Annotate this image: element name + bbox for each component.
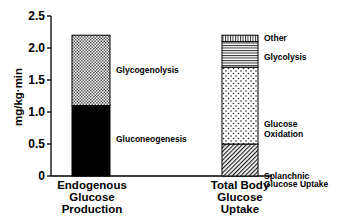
bar-segment-gluconeogenesis — [72, 106, 110, 176]
y-tick-label: 2.0 — [28, 41, 45, 55]
category-label: Uptake — [221, 203, 259, 215]
bars — [72, 35, 258, 176]
y-tick-label: 1.5 — [28, 73, 45, 87]
segment-label: Glycolysis — [264, 52, 307, 62]
stacked-bar-chart: 00.51.01.52.02.5 GluconeogenesisGlycogen… — [0, 0, 343, 219]
segment-label: Glucose Uptake — [264, 179, 329, 189]
bar-segment-splanchnic-glucose-uptake — [222, 144, 258, 176]
bar-segment-glycolysis — [222, 42, 258, 68]
bar-total-uptake — [222, 35, 258, 176]
category-label: Glucose — [69, 191, 114, 203]
bar-segment-glucose-oxidation — [222, 67, 258, 144]
category-label: Total Body — [211, 179, 270, 191]
segment-label: Other — [264, 33, 287, 43]
segment-label: Oxidation — [264, 129, 303, 139]
segment-label: Gluconeogenesis — [116, 134, 187, 144]
y-tick-label: 2.5 — [28, 9, 45, 23]
segment-label: Glucose — [264, 119, 298, 129]
y-tick-label: 0.5 — [28, 137, 45, 151]
category-labels: EndogenousGlucoseProductionTotal BodyGlu… — [57, 179, 270, 215]
bar-segment-other — [222, 35, 258, 41]
y-axis: 00.51.01.52.02.5 — [28, 9, 51, 183]
bar-endogenous-production — [72, 35, 110, 176]
category-label: Endogenous — [57, 179, 127, 191]
bar-segment-glycogenolysis — [72, 35, 110, 105]
y-axis-title: mg/kg·min — [12, 68, 24, 126]
segment-label: Glycogenolysis — [116, 65, 179, 75]
y-tick-label: 0 — [38, 169, 45, 183]
y-tick-label: 1.0 — [28, 105, 45, 119]
category-label: Glucose — [217, 191, 262, 203]
category-label: Production — [62, 203, 123, 215]
